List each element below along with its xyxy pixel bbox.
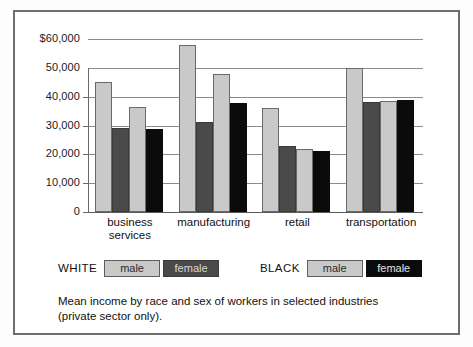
x-axis-category-label: businessservices bbox=[88, 216, 172, 242]
legend-swatch-black-male: male bbox=[307, 260, 363, 277]
bar bbox=[262, 108, 279, 212]
plot-area bbox=[88, 39, 423, 212]
y-axis-tick-label: 40,000 bbox=[18, 90, 80, 102]
y-axis-tick-mark bbox=[83, 183, 88, 184]
y-axis-line bbox=[88, 68, 89, 213]
x-axis-category-label-line: business bbox=[88, 216, 172, 229]
legend-race-label: WHITE bbox=[58, 262, 97, 274]
y-axis-tick-label: 20,000 bbox=[18, 147, 80, 159]
x-axis-category-label: manufacturing bbox=[172, 216, 256, 229]
bar bbox=[230, 103, 247, 212]
figure-root: 010,00020,00030,00040,00050,000$60,000 b… bbox=[0, 0, 473, 347]
gridline bbox=[88, 97, 423, 98]
x-axis-category-label: retail bbox=[256, 216, 340, 229]
bar bbox=[112, 128, 129, 212]
caption-line-1: Mean income by race and sex of workers i… bbox=[58, 295, 378, 307]
x-axis-category-label-line: services bbox=[88, 229, 172, 242]
y-axis-tick-label: 30,000 bbox=[18, 119, 80, 131]
bar bbox=[380, 101, 397, 212]
chart-legend: WHITEmalefemaleBLACKmalefemale bbox=[58, 257, 433, 279]
bar bbox=[213, 74, 230, 212]
bar bbox=[346, 68, 363, 212]
bar bbox=[196, 122, 213, 212]
y-axis-tick-label: 50,000 bbox=[18, 61, 80, 73]
gridline bbox=[88, 68, 423, 69]
gridline bbox=[88, 39, 423, 40]
bar bbox=[146, 129, 163, 212]
bar bbox=[313, 151, 330, 212]
bar bbox=[179, 45, 196, 212]
bar bbox=[363, 102, 380, 212]
figure-caption: Mean income by race and sex of workers i… bbox=[58, 294, 418, 324]
caption-line-2: (private sector only). bbox=[58, 310, 162, 322]
y-axis-tick-mark bbox=[83, 97, 88, 98]
legend-group-black: BLACKmalefemale bbox=[260, 257, 425, 279]
bar bbox=[129, 107, 146, 212]
y-axis-tick-label: 10,000 bbox=[18, 176, 80, 188]
legend-group-white: WHITEmalefemale bbox=[58, 257, 222, 279]
y-axis-tick-mark bbox=[83, 212, 88, 213]
legend-swatch-white-female: female bbox=[163, 260, 219, 277]
x-axis-category-label-line: transportation bbox=[339, 216, 423, 229]
y-axis-tick-label: 0 bbox=[18, 205, 80, 217]
y-axis-labels: 010,00020,00030,00040,00050,000$60,000 bbox=[12, 39, 80, 212]
y-axis-tick-mark bbox=[83, 126, 88, 127]
x-axis-category-label: transportation bbox=[339, 216, 423, 229]
bar bbox=[95, 82, 112, 212]
legend-race-label: BLACK bbox=[260, 262, 300, 274]
legend-swatch-white-male: male bbox=[104, 260, 160, 277]
bar bbox=[296, 149, 313, 212]
gridline bbox=[88, 212, 423, 213]
bar bbox=[279, 146, 296, 212]
y-axis-tick-label: $60,000 bbox=[18, 32, 80, 44]
legend-swatch-black-female: female bbox=[366, 260, 422, 277]
y-axis-tick-mark bbox=[83, 154, 88, 155]
bar bbox=[397, 100, 414, 212]
x-axis-category-label-line: manufacturing bbox=[172, 216, 256, 229]
x-axis-category-label-line: retail bbox=[256, 216, 340, 229]
